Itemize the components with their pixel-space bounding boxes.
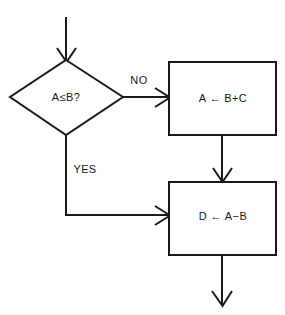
node-process-join[interactable]: D ← A−B [169,182,276,255]
edge-entry [57,17,76,62]
edge-sequence [213,135,232,182]
edge-yes-branch: YES [66,135,170,225]
process-no-label: A ← B+C [199,92,247,104]
decision-label: A≤B? [52,91,80,103]
node-process-no[interactable]: A ← B+C [169,62,276,135]
edge-label-no: NO [130,74,147,86]
node-decision[interactable]: A≤B? [10,60,123,135]
flowchart-svg: A≤B? NO A ← B+C YES D ← A−B [0,0,285,315]
edge-exit [212,255,232,306]
flowchart-canvas: A≤B? NO A ← B+C YES D ← A−B [0,0,285,315]
edge-label-yes: YES [73,163,96,175]
edge-no-branch: NO [123,74,170,107]
yes-branch-line [66,135,169,215]
process-join-label: D ← A−B [199,210,247,222]
